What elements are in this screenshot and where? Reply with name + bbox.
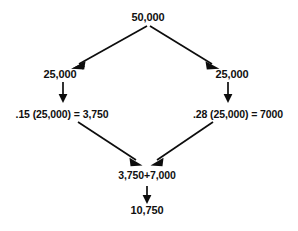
arrow-root-to-left-half: [71, 26, 147, 70]
arrow-root-to-right-half: [150, 26, 220, 70]
node-sum-expression: 3,750+7,000: [118, 170, 176, 181]
arrow-right-calc-to-sum: [151, 122, 214, 166]
node-right-calculation: .28 (25,000) = 7000: [193, 109, 283, 120]
arrow-left-calc-to-sum: [78, 122, 143, 166]
flowchart-diagram: 50,000 25,000 25,000 .15 (25,000) = 3,75…: [0, 0, 298, 231]
node-right-half-amount: 25,000: [215, 69, 248, 80]
arrow-right-half-to-right-calc: [224, 82, 233, 103]
arrow-left-half-to-left-calc: [59, 82, 68, 103]
node-left-calculation: .15 (25,000) = 3,750: [16, 109, 109, 120]
node-total-result: 10,750: [130, 205, 163, 216]
node-left-half-amount: 25,000: [43, 69, 76, 80]
arrow-sum-to-total: [143, 186, 152, 204]
node-gross-income: 50,000: [131, 12, 164, 23]
